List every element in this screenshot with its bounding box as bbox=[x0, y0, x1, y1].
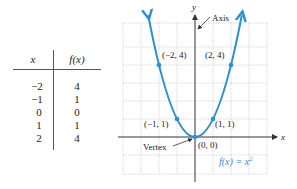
function-label-base: f(x) = x bbox=[219, 156, 250, 168]
point-2-4 bbox=[229, 63, 234, 68]
axis-annotation: Axis bbox=[212, 13, 230, 23]
function-label: f(x) = x2 bbox=[219, 155, 253, 168]
vertex-annotation: Vertex bbox=[143, 142, 167, 152]
x-axis-label: x bbox=[280, 132, 285, 142]
function-label-exponent: 2 bbox=[249, 155, 253, 163]
point-neg1-1 bbox=[175, 117, 180, 122]
point-vertex bbox=[193, 135, 198, 140]
label-2-4: (2, 4) bbox=[205, 50, 225, 60]
parabola-graph: x y (−2, 4) (2, 4) (−1, 1) (1, 1) (0, 0)… bbox=[0, 0, 297, 189]
label-neg2-4: (−2, 4) bbox=[162, 50, 187, 60]
label-vertex-point: (0, 0) bbox=[198, 140, 218, 150]
label-1-1: (1, 1) bbox=[215, 119, 235, 129]
y-axis-label: y bbox=[191, 2, 196, 12]
point-neg2-4 bbox=[157, 63, 162, 68]
vertex-annotation-arrow bbox=[173, 139, 192, 146]
label-neg1-1: (−1, 1) bbox=[144, 119, 169, 129]
